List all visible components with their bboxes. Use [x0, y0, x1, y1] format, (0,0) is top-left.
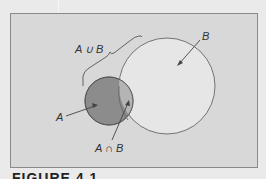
set-a-label: A — [55, 111, 63, 123]
union-label: A ∪ B — [74, 43, 103, 55]
figure-caption: FIGURE 4.1 — [12, 170, 98, 179]
set-b-label: B — [202, 30, 209, 42]
intersection-label: A ∩ B — [94, 142, 123, 154]
venn-diagram: A ∪ B B A A ∩ B — [0, 0, 266, 179]
set-b-circle — [119, 38, 215, 134]
